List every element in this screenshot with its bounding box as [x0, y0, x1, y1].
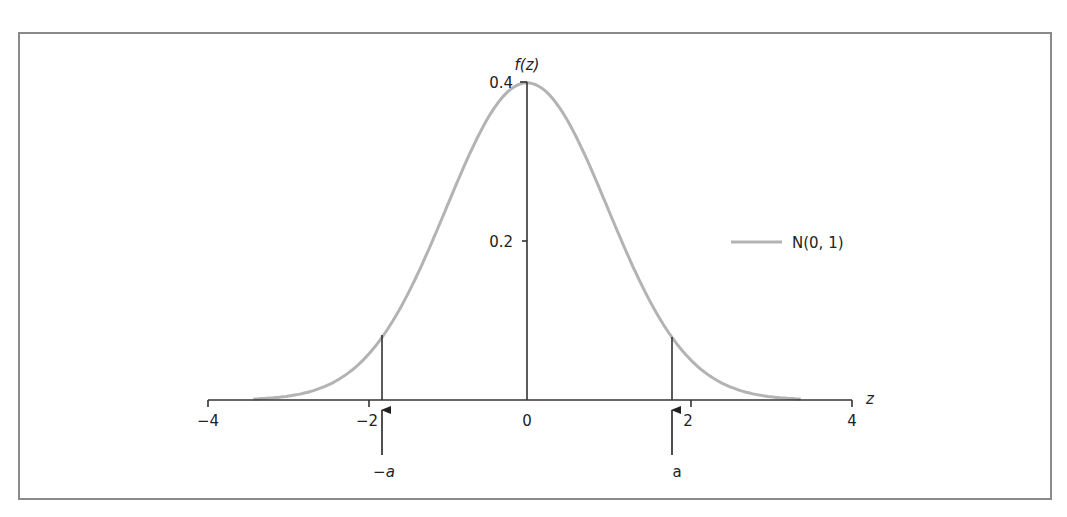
x-tick-label-0: 0 [522, 412, 532, 430]
x-tick-label-m2: −2 [356, 412, 378, 430]
x-tick-label-2: 2 [683, 412, 693, 430]
pos-a-label: a [672, 463, 681, 481]
x-tick-label-4: 4 [847, 412, 857, 430]
y-tick-label-02: 0.2 [489, 233, 513, 251]
normal-distribution-chart: −4 −2 0 2 4 0.4 0.2 f(z) z −a a N(0, 1) [0, 0, 1067, 517]
y-axis-label: f(z) [515, 56, 540, 74]
neg-a-label: −a [373, 463, 395, 481]
x-tick-label-m4: −4 [197, 412, 219, 430]
legend-label: N(0, 1) [792, 234, 844, 252]
x-axis-label: z [865, 390, 875, 408]
y-tick-label-04: 0.4 [489, 74, 513, 92]
